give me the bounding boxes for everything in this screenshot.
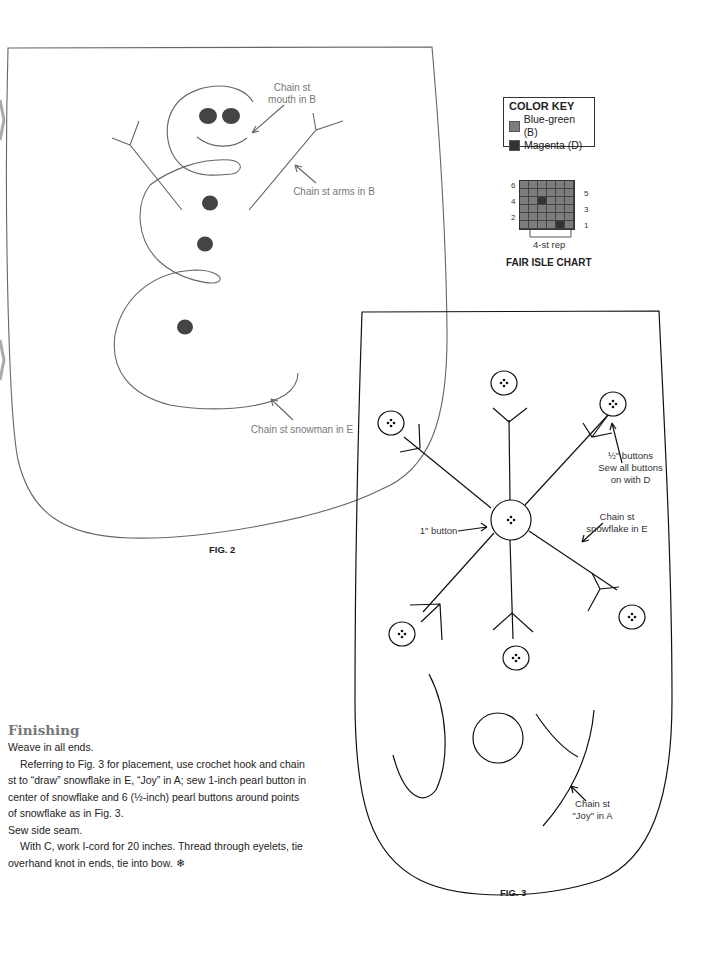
- finishing-section: Finishing Weave in all ends. Referring t…: [8, 722, 308, 871]
- fair-isle-chart-title: FAIR ISLE CHART: [506, 257, 592, 268]
- finishing-paragraph: Weave in all ends.: [8, 739, 308, 756]
- finishing-heading: Finishing: [8, 722, 308, 739]
- finishing-paragraph: Referring to Fig. 3 for placement, use c…: [8, 756, 308, 822]
- finishing-paragraph: Sew side seam.: [8, 822, 308, 839]
- repeat-label: 4-st rep: [533, 239, 565, 250]
- finishing-paragraph: With C, work I-cord for 20 inches. Threa…: [8, 838, 308, 871]
